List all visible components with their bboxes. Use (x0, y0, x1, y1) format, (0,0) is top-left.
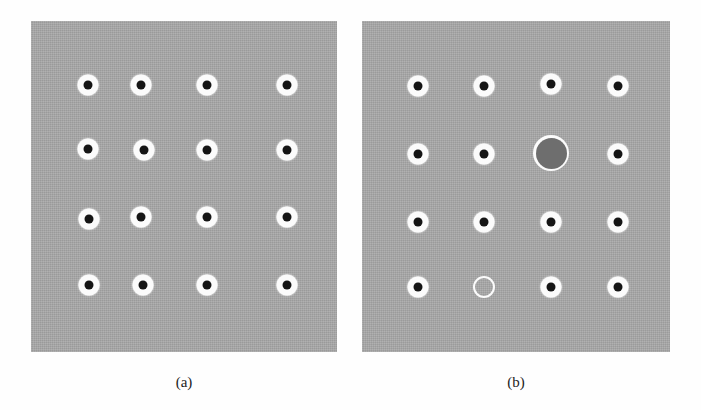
filled-dot-marker (197, 75, 218, 96)
filled-dot-marker (408, 212, 429, 233)
filled-dot-marker (131, 207, 152, 228)
filled-dot-marker (277, 275, 298, 296)
filled-dot-marker (408, 144, 429, 165)
filled-dot-marker (408, 76, 429, 97)
filled-dot-marker (408, 277, 429, 298)
large-dark-disc-marker (533, 135, 569, 171)
filled-dot-marker (541, 277, 562, 298)
filled-dot-marker (78, 139, 99, 160)
filled-dot-marker (79, 209, 100, 230)
filled-dot-marker (608, 277, 629, 298)
filled-dot-marker (78, 75, 99, 96)
filled-dot-marker (541, 212, 562, 233)
filled-dot-marker (608, 76, 629, 97)
filled-dot-marker (608, 212, 629, 233)
panel-a (31, 21, 337, 352)
filled-dot-marker (277, 207, 298, 228)
filled-dot-marker (474, 144, 495, 165)
filled-dot-marker (79, 275, 100, 296)
filled-dot-marker (277, 140, 298, 161)
caption-panel-a: (a) (176, 374, 193, 391)
filled-dot-marker (474, 76, 495, 97)
filled-dot-marker (474, 212, 495, 233)
hollow-ring-marker (473, 276, 495, 298)
panel-b (362, 21, 670, 352)
filled-dot-marker (131, 75, 152, 96)
figure-container: (a) (b) (0, 0, 701, 410)
caption-panel-b: (b) (507, 374, 525, 391)
filled-dot-marker (277, 75, 298, 96)
filled-dot-marker (197, 140, 218, 161)
filled-dot-marker (133, 275, 154, 296)
filled-dot-marker (134, 140, 155, 161)
filled-dot-marker (197, 207, 218, 228)
filled-dot-marker (197, 275, 218, 296)
filled-dot-marker (608, 144, 629, 165)
filled-dot-marker (541, 74, 562, 95)
